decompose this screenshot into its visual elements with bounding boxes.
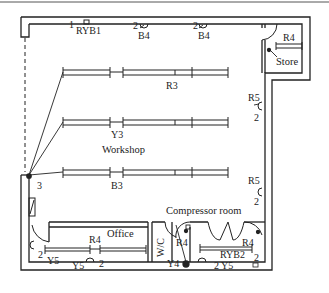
label-r4-office: R4 <box>89 235 101 245</box>
label-y4: Y4 <box>167 259 179 269</box>
label-1: 1 <box>69 20 74 30</box>
label-r4-wc: R4 <box>176 238 188 248</box>
label-y5-a: Y5 <box>47 256 59 266</box>
label-2-comp-b: 2 <box>254 253 259 263</box>
label-b3: B3 <box>111 181 123 191</box>
light-fittings <box>30 20 262 262</box>
label-ryb2: RYB2 <box>220 250 245 260</box>
label-ryb1: RYB1 <box>76 26 101 36</box>
label-2-office-b: 2 <box>99 259 104 269</box>
room-store: Store <box>276 57 298 68</box>
label-r4-comp: R4 <box>242 238 254 248</box>
fluorescent-y3 <box>63 117 228 128</box>
room-wc: W/C <box>156 238 166 257</box>
label-3: 3 <box>37 181 42 191</box>
label-2-comp-a: 2 <box>214 261 219 271</box>
label-r4-store: R4 <box>283 33 295 43</box>
label-2-office-a: 2 <box>38 250 43 260</box>
label-b4-a: B4 <box>138 31 150 41</box>
room-workshop: Workshop <box>102 145 145 156</box>
label-b4-b: B4 <box>198 31 210 41</box>
label-y5-c: Y5 <box>221 261 233 271</box>
fluorescent-b3 <box>63 167 228 178</box>
label-2-r5b: 2 <box>254 197 259 207</box>
fluorescent-office <box>45 245 146 254</box>
label-y3: Y3 <box>111 130 123 140</box>
outer-walls <box>21 17 310 270</box>
room-compressor: Compressor room <box>166 206 242 217</box>
label-y5-b: Y5 <box>72 261 84 271</box>
label-2-r5a: 2 <box>254 113 259 123</box>
fluorescent-r3 <box>63 67 228 78</box>
label-r3: R3 <box>166 81 178 91</box>
label-r5-b: R5 <box>248 176 260 186</box>
fluorescent-store <box>276 42 302 50</box>
label-r5-a: R5 <box>248 93 260 103</box>
room-office: Office <box>107 229 134 240</box>
